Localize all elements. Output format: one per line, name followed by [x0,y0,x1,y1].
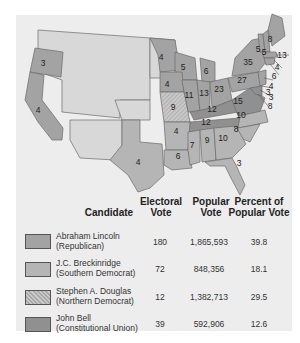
label-california: 4 [36,105,41,115]
swatch-breckinridge [25,262,51,277]
header-percent-popular-vote: Percent of Popular Vote [224,196,294,218]
label-south-carolina: 8 [234,124,239,134]
header-electoral-line2: Vote [136,207,186,218]
label-arkansas: 4 [174,126,179,136]
percent-popular-vote: 18.1 [241,264,277,274]
label-new-york: 35 [243,57,253,67]
state-california [25,72,63,140]
candidate-party: (Northern Democrat) [56,297,134,307]
candidate-name-cell: John Bell (Constitutional Union) [56,314,138,333]
swatch-douglas [25,290,51,305]
popular-vote: 592,906 [179,319,239,329]
label-oregon: 3 [41,58,46,68]
label-iowa: 4 [165,79,170,89]
candidate-party: (Southern Democrat) [56,269,135,279]
percent-popular-vote: 29.5 [241,292,277,302]
label-massachusetts: 13 [277,50,287,60]
state-iowa [160,72,184,92]
label-texas: 4 [136,157,141,167]
percent-popular-vote: 39.8 [241,237,277,247]
header-percent-line2: Popular Vote [224,207,294,218]
label-virginia: 15 [233,96,243,106]
label-michigan: 6 [204,66,209,76]
label-alabama: 9 [205,135,210,145]
label-georgia: 10 [218,133,228,143]
legend-row-breckinridge: J.C. Breckinridge (Southern Democrat) 72… [16,256,292,284]
popular-vote: 848,356 [179,264,239,274]
label-new-hampshire: 5 [262,47,267,57]
candidate-name-cell: Abraham Lincoln (Republican) [56,232,120,251]
label-indiana: 13 [199,88,209,98]
header-electoral-vote: Electoral Vote [136,196,186,218]
swatch-lincoln [25,234,51,249]
header-percent-line1: Percent of [224,196,294,207]
popular-vote: 1,865,593 [179,237,239,247]
candidate-party: (Republican) [56,242,120,252]
electoral-vote: 12 [148,292,172,302]
header-electoral-line1: Electoral [136,196,186,207]
legend-row-bell: John Bell (Constitutional Union) 39 592,… [16,311,292,339]
state-alabama [200,128,216,162]
label-wisconsin: 5 [181,62,186,72]
legend-row-lincoln: Abraham Lincoln (Republican) 180 1,865,5… [16,228,292,256]
label-maine: 8 [268,34,273,44]
label-kentucky: 12 [207,104,217,114]
popular-vote: 1,382,713 [179,292,239,302]
legend-row-douglas: Stephen A. Douglas (Northern Democrat) 1… [16,284,292,312]
label-connecticut: 6 [272,71,277,81]
label-mississippi: 7 [190,140,195,150]
candidate-name-cell: J.C. Breckinridge (Southern Democrat) [56,259,135,278]
swatch-bell [25,317,51,332]
label-north-carolina: 10 [236,110,246,120]
state-oregon [30,48,63,77]
electoral-vote: 39 [148,319,172,329]
label-ohio: 23 [214,84,224,94]
electoral-vote: 72 [148,264,172,274]
label-pennsylvania: 27 [237,75,247,85]
electoral-vote: 180 [148,237,172,247]
label-louisiana: 6 [176,151,181,161]
candidate-party: (Constitutional Union) [56,324,138,334]
label-tennessee: 12 [201,117,211,127]
label-maryland-2: 8 [268,101,273,111]
label-vermont: 5 [256,44,261,54]
us-map-1860: 3 4 4 4 5 6 4 11 13 23 9 12 12 15 10 8 4… [0,0,300,200]
label-missouri: 9 [171,102,176,112]
label-florida: 3 [237,158,242,168]
label-illinois: 11 [185,90,194,100]
percent-popular-vote: 12.6 [241,319,277,329]
candidate-name-cell: Stephen A. Douglas (Northern Democrat) [56,287,134,306]
label-minnesota: 4 [159,52,164,62]
